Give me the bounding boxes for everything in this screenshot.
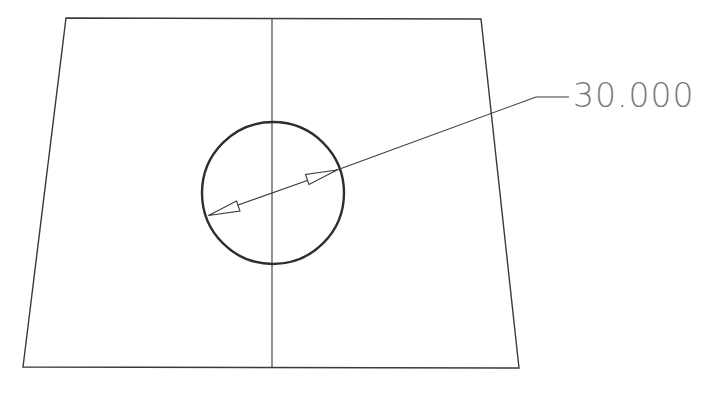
arrowhead-left-icon: [209, 201, 241, 216]
dimension-leader-line: [209, 97, 570, 216]
dimension-value-label: 30.000: [573, 76, 694, 115]
technical-drawing: 30.000: [0, 0, 705, 393]
arrowhead-right-icon: [306, 170, 338, 185]
diameter-dimension: 30.000: [209, 76, 695, 216]
